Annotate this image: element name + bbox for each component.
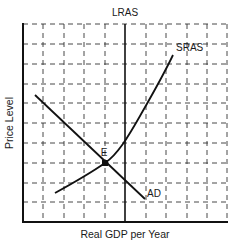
x-axis-label: Real GDP per Year	[80, 228, 170, 240]
lras-label: LRAS	[112, 7, 138, 18]
ad-label: AD	[147, 188, 161, 199]
y-axis-label: Price Level	[3, 97, 15, 149]
equilibrium-point	[102, 160, 108, 166]
sras-curve	[55, 55, 173, 193]
equilibrium-label: E	[101, 147, 108, 158]
sras-label: SRAS	[176, 42, 204, 53]
ad-as-chart: LRAS SRAS AD E Real GDP per Year Price L…	[0, 0, 239, 245]
